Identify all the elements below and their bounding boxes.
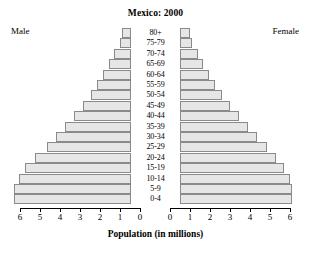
pyramid-row: 35-39 — [0, 122, 311, 132]
pyramid-row: 60-64 — [0, 70, 311, 80]
male-bar — [14, 194, 131, 204]
male-bar — [122, 28, 131, 38]
age-group-label: 0-4 — [131, 194, 180, 204]
female-bar — [180, 101, 230, 111]
male-bar — [103, 70, 131, 80]
pyramid-row: 45-49 — [0, 101, 311, 111]
male-bar — [114, 49, 131, 59]
age-group-label: 40-44 — [131, 111, 180, 121]
x-axis-caption: Population (in millions) — [0, 229, 311, 239]
female-bar — [180, 153, 276, 163]
axis-tick-label: 4 — [241, 212, 259, 222]
axis-tick-label: 0 — [161, 212, 179, 222]
age-group-label: 65-69 — [131, 59, 180, 69]
male-bar — [35, 153, 131, 163]
age-group-label: 55-59 — [131, 80, 180, 90]
pyramid-row: 20-24 — [0, 153, 311, 163]
axis-tick-label: 6 — [281, 212, 299, 222]
female-bar — [180, 122, 248, 132]
pyramid-row: 50-54 — [0, 90, 311, 100]
axis-tick-label: 3 — [71, 212, 89, 222]
male-bar — [19, 174, 131, 184]
age-group-label: 60-64 — [131, 70, 180, 80]
pyramid-row: 15-19 — [0, 163, 311, 173]
female-bar — [180, 163, 284, 173]
axis-tick-label: 6 — [11, 212, 29, 222]
age-group-label: 30-34 — [131, 132, 180, 142]
pyramid-row: 25-29 — [0, 142, 311, 152]
male-bar — [120, 38, 131, 48]
male-bar — [109, 59, 131, 69]
age-group-label: 75-79 — [131, 38, 180, 48]
axis-tick-label: 2 — [91, 212, 109, 222]
age-group-label: 10-14 — [131, 174, 180, 184]
pyramid-row: 40-44 — [0, 111, 311, 121]
male-bar — [83, 101, 131, 111]
female-bar — [180, 194, 292, 204]
age-group-label: 80+ — [131, 28, 180, 38]
female-bar — [180, 132, 257, 142]
female-bar — [180, 49, 198, 59]
pyramid-row: 75-79 — [0, 38, 311, 48]
female-bar — [180, 142, 267, 152]
pyramid-row: 65-69 — [0, 59, 311, 69]
population-pyramid-chart: Mexico: 2000 Male Female 0-45-910-1415-1… — [0, 0, 311, 253]
female-bar — [180, 80, 215, 90]
pyramid-row: 5-9 — [0, 184, 311, 194]
axis-tick-label: 1 — [111, 212, 129, 222]
age-group-label: 15-19 — [131, 163, 180, 173]
female-bar — [180, 59, 203, 69]
age-group-label: 25-29 — [131, 142, 180, 152]
axis-tick-label: 4 — [51, 212, 69, 222]
male-bar — [25, 163, 131, 173]
pyramid-row: 70-74 — [0, 49, 311, 59]
female-bar — [180, 184, 292, 194]
axis-tick-label: 3 — [221, 212, 239, 222]
plot-area: 0-45-910-1415-1920-2425-2930-3435-3940-4… — [0, 28, 311, 208]
male-bar — [47, 142, 131, 152]
male-bar — [74, 111, 131, 121]
axis-tick-label: 5 — [31, 212, 49, 222]
age-group-label: 20-24 — [131, 153, 180, 163]
age-group-label: 50-54 — [131, 90, 180, 100]
age-group-label: 5-9 — [131, 184, 180, 194]
female-bar — [180, 90, 222, 100]
female-bar — [180, 174, 290, 184]
pyramid-row: 10-14 — [0, 174, 311, 184]
pyramid-row: 80+ — [0, 28, 311, 38]
axis-tick-label: 1 — [181, 212, 199, 222]
pyramid-row: 30-34 — [0, 132, 311, 142]
age-group-label: 45-49 — [131, 101, 180, 111]
male-bar — [56, 132, 131, 142]
male-bar — [65, 122, 131, 132]
male-bar — [91, 90, 131, 100]
female-bar — [180, 70, 209, 80]
axis-tick-label: 0 — [131, 212, 149, 222]
female-bar — [180, 111, 239, 121]
female-bar — [180, 28, 190, 38]
male-bar — [14, 184, 131, 194]
pyramid-row: 0-4 — [0, 194, 311, 204]
axis-tick-label: 2 — [201, 212, 219, 222]
chart-title: Mexico: 2000 — [0, 8, 311, 18]
male-bar — [97, 80, 131, 90]
age-group-label: 35-39 — [131, 122, 180, 132]
pyramid-row: 55-59 — [0, 80, 311, 90]
axis-tick-label: 5 — [261, 212, 279, 222]
age-group-label: 70-74 — [131, 49, 180, 59]
female-bar — [180, 38, 192, 48]
